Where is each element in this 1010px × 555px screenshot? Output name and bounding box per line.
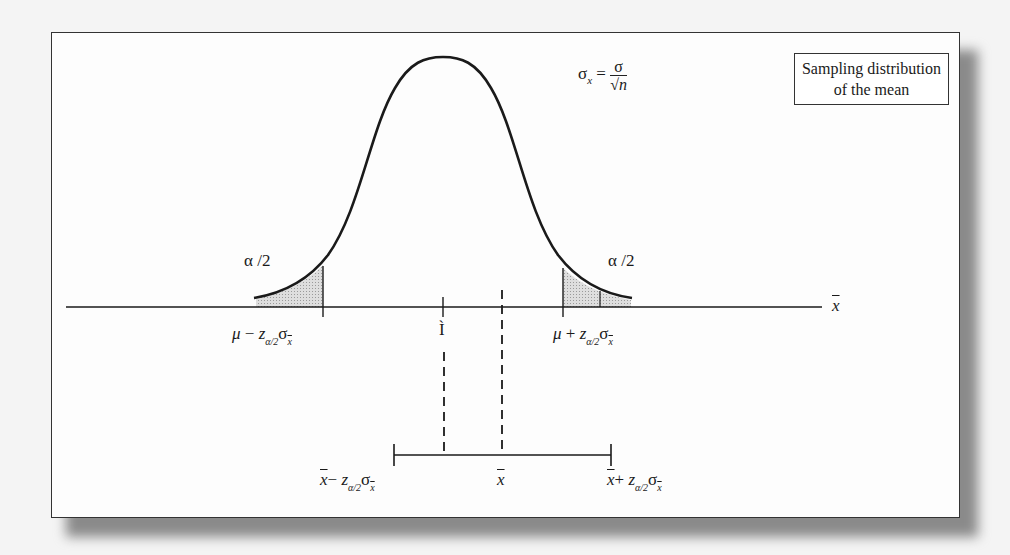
plus-sign: + [615, 470, 625, 489]
sigma-subscript: x [587, 74, 592, 86]
interval-center-label: x [497, 470, 505, 490]
sigma-symbol: σ [578, 64, 587, 83]
fraction-numerator: σ [610, 58, 627, 76]
z-subscript: α/2 [348, 482, 361, 493]
plus-sign: + [566, 324, 576, 343]
standard-error-formula: σx = σ √n [578, 58, 627, 93]
interval-upper-label: x+ zα/2σx [607, 470, 662, 493]
bell-curve [254, 57, 632, 298]
lower-critical-label: μ − zα/2σx [232, 324, 292, 347]
xbar-symbol: x [320, 470, 328, 489]
legend-line-1: Sampling distribution [795, 58, 948, 79]
sigma-subscript: x [608, 336, 612, 347]
mu-symbol: μ [553, 324, 562, 343]
xbar-symbol: x [607, 470, 615, 489]
mu-marker-label: Ì [439, 320, 445, 340]
interval-lower-label: x− zα/2σx [320, 470, 375, 493]
sigma-symbol: σ [648, 470, 657, 489]
sigma-subscript: x [287, 336, 291, 347]
sigma-symbol: σ [361, 470, 370, 489]
minus-sign: − [328, 470, 338, 489]
z-subscript: α/2 [635, 482, 648, 493]
upper-critical-label: μ + zα/2σx [553, 324, 613, 347]
mu-symbol: μ [232, 324, 241, 343]
equals-sign: = [596, 64, 606, 83]
sigma-subscript: x [657, 482, 661, 493]
fraction: σ √n [610, 58, 627, 93]
fraction-denominator: √n [610, 76, 627, 93]
axis-label-xbar: x [832, 296, 840, 316]
left-tail-label: α /2 [244, 251, 270, 271]
legend-line-2: of the mean [795, 79, 948, 100]
minus-sign: − [245, 324, 255, 343]
right-tail-label: α /2 [608, 251, 634, 271]
z-subscript: α/2 [265, 336, 278, 347]
sigma-subscript: x [370, 482, 374, 493]
legend-box: Sampling distribution of the mean [794, 53, 949, 105]
z-subscript: α/2 [586, 336, 599, 347]
